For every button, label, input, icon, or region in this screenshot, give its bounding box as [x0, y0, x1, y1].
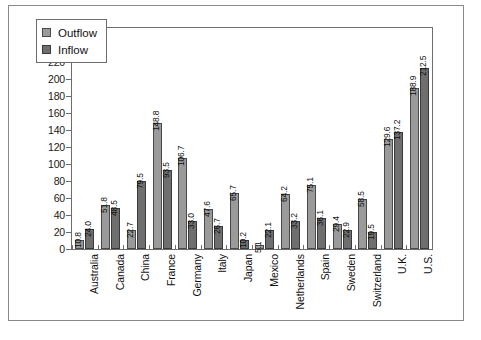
bar-outflow-us — [410, 88, 419, 249]
bar-value-label: 33.2 — [289, 213, 299, 229]
bar-value-label: 65.7 — [228, 185, 238, 201]
bar-value-label: 148.8 — [151, 110, 161, 130]
y-axis-tick-label: 40 — [54, 209, 65, 221]
bar-value-label: 64.2 — [279, 187, 289, 203]
bar-value-label: 79.5 — [135, 174, 145, 190]
bar-value-label: 19.5 — [366, 225, 376, 241]
x-axis-label-italy: Italy — [216, 254, 228, 273]
bar-value-label: 212.5 — [418, 56, 428, 76]
bar-value-label: 10.8 — [73, 232, 83, 248]
y-axis-tick-label: 60 — [54, 192, 65, 204]
legend-swatch-outflow — [42, 28, 51, 37]
x-axis-label-netherlands: Netherlands — [294, 254, 306, 310]
legend-swatch-inflow — [42, 45, 51, 54]
y-axis-tick-label: 200 — [48, 73, 65, 85]
x-axis-label-us: U.S. — [422, 254, 434, 274]
bar-inflow-france — [163, 170, 172, 249]
x-axis-label-australia: Australia — [88, 254, 100, 294]
bar-value-label: 129.6 — [382, 127, 392, 147]
legend-label-inflow: Inflow — [58, 44, 88, 56]
y-axis-tick-label: 140 — [48, 124, 65, 136]
x-axis-label-mexico: Mexico — [268, 254, 280, 287]
x-axis-label-france: France — [165, 254, 177, 286]
bar-value-label: 75.1 — [305, 177, 315, 193]
bar-value-label: 93.5 — [161, 162, 171, 178]
y-axis-tick-label: 80 — [54, 175, 65, 187]
bar-value-label: 48.5 — [109, 200, 119, 216]
x-axis-label-canada: Canada — [114, 254, 126, 290]
x-axis-labels: AustraliaCanadaChinaFranceGermanyItalyJa… — [71, 250, 433, 320]
bar-value-label: 22.1 — [263, 222, 273, 238]
bar-value-label: 137.2 — [392, 120, 402, 140]
bar-value-label: 58.5 — [356, 192, 366, 208]
bar-outflow-germany — [178, 158, 187, 249]
legend-item-inflow: Inflow — [42, 41, 97, 58]
bar-value-label: 188.9 — [408, 76, 418, 96]
bar-value-label: 33.0 — [186, 213, 196, 229]
bar-value-label: 22.9 — [341, 222, 351, 238]
bar-inflow-us — [420, 68, 429, 249]
chart-figure: 020406080100120140160180200220240260 10.… — [8, 5, 464, 321]
y-axis-tick-label: 0 — [59, 243, 65, 255]
bar-outflow-france — [153, 123, 162, 249]
plot-area: 10.824.051.848.522.779.5148.893.5106.733… — [71, 27, 433, 250]
bar-outflow-uk — [384, 139, 393, 249]
x-axis-label-switzerland: Switzerland — [371, 254, 383, 307]
bar-value-label: 26.7 — [212, 219, 222, 235]
y-axis-tick-label: 120 — [48, 141, 65, 153]
chart-legend: Outflow Inflow — [36, 19, 107, 63]
bar-inflow-china — [137, 181, 146, 249]
bar-value-label: 22.7 — [125, 222, 135, 238]
x-axis-label-sweden: Sweden — [345, 254, 357, 291]
x-axis-label-spain: Spain — [319, 254, 331, 280]
x-axis-label-germany: Germany — [191, 254, 203, 296]
bar-value-label: 36.1 — [315, 211, 325, 227]
x-axis-label-china: China — [139, 254, 151, 281]
x-axis-label-japan: Japan — [242, 254, 254, 282]
legend-item-outflow: Outflow — [42, 24, 97, 41]
bar-value-label: 106.7 — [176, 146, 186, 166]
y-axis-tick-label: 100 — [48, 158, 65, 170]
y-axis-tick-label: 160 — [48, 107, 65, 119]
bar-inflow-uk — [394, 132, 403, 249]
y-axis-tick-label: 20 — [54, 226, 65, 238]
bar-value-label: 47.6 — [202, 201, 212, 217]
y-axis-tick-label: 180 — [48, 90, 65, 102]
bar-value-label: 10.2 — [238, 233, 248, 249]
bar-value-label: 29.4 — [331, 216, 341, 232]
bar-value-label: 24.0 — [83, 221, 93, 237]
legend-label-outflow: Outflow — [58, 27, 97, 39]
bar-value-label: 51.8 — [99, 197, 109, 213]
x-axis-label-uk: U.K. — [396, 254, 408, 274]
